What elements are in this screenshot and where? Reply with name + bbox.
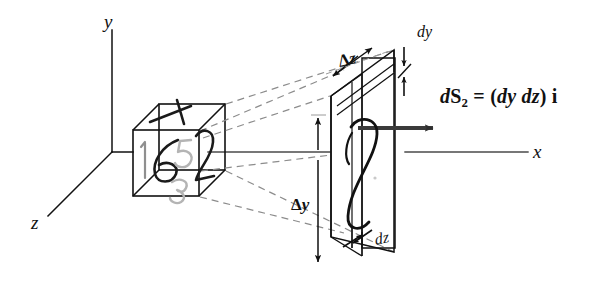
projection-line-bottom-front: [201, 155, 331, 171]
panel-face-rect: [362, 58, 395, 248]
projection-line-top-front: [200, 70, 344, 131]
dy-gap-slash: [398, 64, 411, 78]
diagram-canvas: [0, 0, 597, 287]
projection-line-bottom-far: [226, 171, 394, 252]
panel-edge-top: [331, 74, 362, 96]
numeral-1-stroke: [141, 142, 145, 178]
y-axis-label: y: [104, 12, 112, 31]
panel-center-dot: [373, 176, 376, 179]
cube-edge-bottom-right: [199, 170, 225, 196]
formula-dz: dz: [522, 85, 540, 107]
dy-label: dy: [417, 24, 432, 40]
coordinate-axes: [48, 30, 528, 216]
projection-lines: [200, 50, 394, 252]
delta-z-guide: [326, 50, 392, 74]
formula-dy: dy: [497, 85, 516, 107]
x-axis-label: x: [533, 142, 541, 161]
ds2-formula: dS2 = (dy dz) i: [440, 86, 558, 109]
numeral-3-stroke: [170, 180, 187, 203]
enlarged-face-panel: [331, 50, 395, 256]
formula-equals-sign: =: [473, 85, 485, 107]
delta-z-label: Δz: [338, 49, 357, 70]
dz-dimension: [343, 228, 372, 256]
delta-y-label: Δy: [291, 196, 309, 213]
formula-close-paren: ): [540, 85, 547, 107]
formula-open-paren: (: [490, 85, 497, 107]
strip-edge-upper-b: [337, 73, 394, 115]
dz-label: dz: [374, 229, 390, 248]
projection-line-bottom-back: [200, 197, 344, 233]
delta-z-dimension: [326, 48, 392, 76]
formula-S-bold: S: [450, 85, 461, 107]
delta-y-dimension: [311, 115, 326, 262]
z-axis-label: z: [31, 213, 38, 232]
z-axis-line: [48, 152, 112, 216]
numeral-5-stroke: [175, 140, 192, 167]
formula-unit-vector-i: i: [552, 85, 558, 107]
z-axis-label-text: z: [31, 212, 38, 233]
numeral-6-stroke: [154, 140, 178, 182]
figure-container: y z x Δy Δz dy dz dS2 = (dy dz) i: [0, 0, 597, 287]
delta-y-variable: y: [302, 195, 310, 214]
panel-numeral-2-tail: [346, 133, 352, 164]
dy-dimension: [394, 47, 411, 96]
delta-y-greek: Δ: [291, 195, 302, 214]
formula-d: d: [440, 85, 450, 107]
cube-hidden-numeral-strokes: [170, 140, 192, 203]
cube-edge-top-left: [133, 104, 159, 130]
